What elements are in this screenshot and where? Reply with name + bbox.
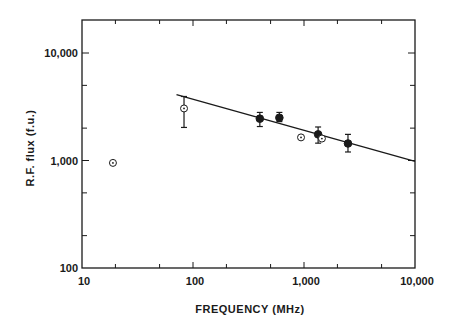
y-tick-label: 10,000 (44, 47, 78, 59)
plot-frame (82, 20, 415, 268)
x-tick-label: 1,000 (292, 275, 320, 287)
fit-line-segment (176, 95, 415, 162)
open-data-point-dot (112, 162, 114, 164)
y-tick-label: 100 (60, 262, 78, 274)
plot-border (82, 20, 415, 268)
fit-line (176, 95, 415, 162)
y-axis-title: R.F. flux (f.u.) (24, 109, 36, 186)
open-data-point-dot (183, 108, 185, 110)
open-data-point-dot (321, 138, 323, 140)
filled-data-point (256, 115, 264, 123)
x-tick-label: 100 (186, 275, 204, 287)
x-axis-title: FREQUENCY (MHz) (195, 303, 304, 315)
y-tick-labels: 1001,00010,000 (44, 47, 78, 274)
data-points (109, 96, 351, 166)
filled-data-point (276, 114, 284, 122)
filled-data-point (344, 140, 352, 148)
y-tick-label: 1,000 (50, 155, 78, 167)
flux-frequency-chart: 101001,00010,000 1001,00010,000 FREQUENC… (0, 0, 455, 331)
open-data-point-dot (300, 137, 302, 139)
axis-ticks (82, 20, 415, 268)
x-tick-labels: 101001,00010,000 (78, 275, 434, 287)
x-tick-label: 10 (78, 275, 90, 287)
x-tick-label: 10,000 (400, 275, 434, 287)
